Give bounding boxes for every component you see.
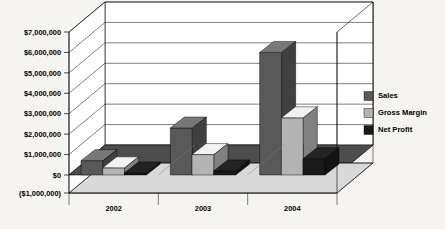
column-chart-3d: $7,000,000$6,000,000$5,000,000$4,000,000… bbox=[0, 0, 445, 229]
chart-container: $7,000,000$6,000,000$5,000,000$4,000,000… bbox=[0, 0, 445, 229]
legend-swatch-sales bbox=[364, 92, 373, 101]
y-tick-label: ($1,000,000) bbox=[19, 189, 61, 198]
back-wall bbox=[105, 2, 373, 145]
y-tick-label: $5,000,000 bbox=[24, 69, 61, 78]
bar-front-face bbox=[281, 118, 303, 175]
x-axis-category-label: 2003 bbox=[195, 204, 211, 213]
bar-front-face bbox=[103, 168, 125, 175]
legend-swatch-net-profit bbox=[364, 126, 373, 135]
legend-swatch-gross-margin bbox=[364, 109, 373, 118]
x-axis-category-label: 2004 bbox=[284, 204, 301, 213]
y-tick-label: $4,000,000 bbox=[24, 89, 61, 98]
bar-front-face bbox=[192, 155, 214, 175]
y-tick-label: $0 bbox=[53, 171, 61, 180]
legend-label-sales: Sales bbox=[378, 91, 398, 100]
y-tick-label: $2,000,000 bbox=[24, 130, 61, 139]
bar-front-face bbox=[214, 171, 236, 175]
bar-front-face bbox=[303, 159, 325, 175]
y-tick-label: $6,000,000 bbox=[24, 48, 61, 57]
legend-label-net-profit: Net Profit bbox=[378, 125, 413, 134]
y-tick-label: $1,000,000 bbox=[24, 150, 61, 159]
bar-front-face bbox=[170, 128, 192, 175]
y-tick-label: $3,000,000 bbox=[24, 109, 61, 118]
bar-front-face bbox=[81, 161, 103, 175]
x-axis-category-label: 2002 bbox=[105, 204, 121, 213]
y-tick-label: $7,000,000 bbox=[24, 28, 61, 37]
bar-front-face bbox=[124, 173, 146, 175]
legend-label-gross-margin: Gross Margin bbox=[378, 108, 427, 117]
bar-front-face bbox=[260, 52, 282, 175]
